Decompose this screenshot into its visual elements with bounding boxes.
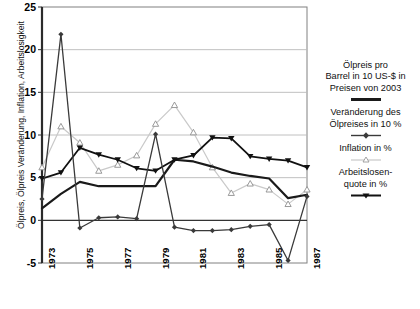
x-tick-1975: 1975 — [84, 248, 95, 269]
x-tick-1981: 1981 — [197, 248, 208, 269]
legend-label-line1: Ölpreis pro — [313, 60, 418, 71]
legend-label-line3: Preisen von 2003 — [313, 83, 418, 94]
legend-label-line1: Arbeitslosen- — [313, 167, 418, 178]
legend-key-thick-line-icon — [313, 95, 418, 104]
x-tick-1987: 1987 — [311, 248, 322, 269]
legend-label-line1: Inflation in % — [313, 143, 418, 154]
x-tick-1985: 1985 — [273, 248, 284, 269]
legend-entry-oil-price-change: Veränderung des Ölpreises in 10 % — [313, 107, 418, 140]
legend-label-line2: Barrel in 10 US-$ in — [313, 71, 418, 82]
legend-entry-oil-price: Ölpreis pro Barrel in 10 US-$ in Preisen… — [313, 60, 418, 104]
x-tick-1977: 1977 — [122, 248, 133, 269]
x-tick-1973: 1973 — [46, 248, 57, 269]
x-tick-1979: 1979 — [160, 248, 171, 269]
legend-entry-unemployment: Arbeitslosen- quote in % — [313, 167, 418, 200]
legend-key-triangle-down-line-icon — [313, 191, 418, 200]
legend-key-triangle-up-line-icon — [313, 155, 418, 164]
legend-key-diamond-line-icon — [313, 131, 418, 140]
legend-entry-inflation: Inflation in % — [313, 143, 418, 164]
legend-label-line1: Veränderung des — [313, 107, 418, 118]
legend-label-line2: Ölpreises in 10 % — [313, 119, 418, 130]
legend-label-line2: quote in % — [313, 179, 418, 190]
x-tick-1983: 1983 — [235, 248, 246, 269]
oil-price-chart: Ölpreis, Ölpreis Veränderung, Inflation,… — [0, 0, 420, 309]
chart-legend: Ölpreis pro Barrel in 10 US-$ in Preisen… — [313, 60, 418, 203]
